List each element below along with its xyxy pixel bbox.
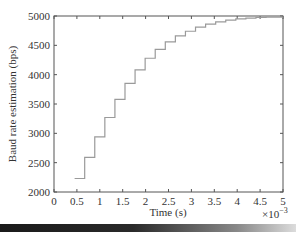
y-axis-ticks: 2000250030003500400045005000 (28, 10, 283, 198)
baud-rate-step-line (75, 17, 283, 178)
x-tick-label: 3 (189, 195, 195, 207)
x-tick-label: 1.5 (116, 195, 130, 207)
x-tick-label: 4 (234, 195, 240, 207)
x-tick-label: 2 (143, 195, 149, 207)
x-tick-label: 0 (51, 195, 57, 207)
x-tick-label: 3.5 (207, 195, 221, 207)
x-axis-multiplier: ×10−3 (262, 206, 288, 220)
y-tick-label: 2000 (28, 186, 51, 198)
x-tick-label: 4.5 (253, 195, 267, 207)
x-tick-label: 1 (97, 195, 103, 207)
y-tick-label: 5000 (28, 10, 51, 22)
x-axis-ticks: 00.511.522.533.544.55 (51, 16, 286, 207)
x-axis-label: Time (s) (149, 206, 187, 219)
bottom-dark-bar (0, 224, 296, 232)
x-tick-label: 0.5 (70, 195, 84, 207)
y-tick-label: 4000 (28, 69, 51, 81)
y-tick-label: 3000 (28, 127, 51, 139)
y-tick-label: 3500 (28, 98, 51, 110)
y-tick-label: 4500 (28, 39, 51, 51)
baud-rate-chart: 00.511.522.533.544.55 200025003000350040… (0, 0, 296, 232)
y-tick-label: 2500 (28, 157, 51, 169)
y-axis-label: Baud rate estimation (bps) (6, 45, 19, 162)
plot-area: 00.511.522.533.544.55 200025003000350040… (28, 10, 286, 207)
